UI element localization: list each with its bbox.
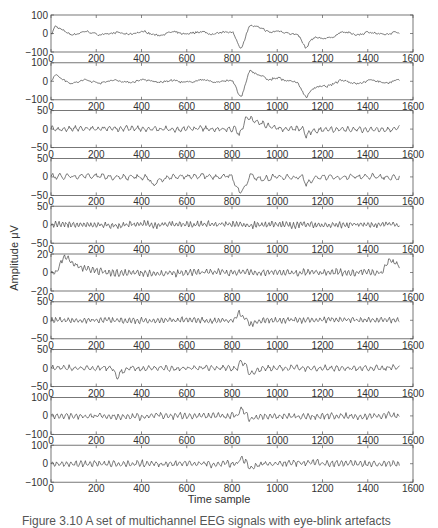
svg-text:1000: 1000 [266,196,289,207]
svg-text:200: 200 [88,388,105,399]
eeg-trace [51,360,399,379]
svg-text:100: 100 [31,392,48,403]
svg-text:100: 100 [31,57,48,68]
svg-text:0: 0 [42,410,48,421]
svg-text:−100: −100 [25,47,48,58]
svg-text:1600: 1600 [402,435,425,446]
channel-panel-3: −5005002004006008001000120014001600 [31,105,425,160]
svg-text:1200: 1200 [311,101,334,112]
eeg-trace [51,310,399,326]
svg-text:1600: 1600 [402,340,425,351]
svg-text:400: 400 [133,340,150,351]
svg-text:1600: 1600 [402,53,425,64]
svg-text:0: 0 [48,340,54,351]
svg-text:0: 0 [42,267,48,278]
svg-text:1600: 1600 [402,196,425,207]
svg-text:0: 0 [42,363,48,374]
svg-text:1200: 1200 [311,196,334,207]
svg-text:200: 200 [88,292,105,303]
eeg-trace [51,173,399,193]
svg-text:−100: −100 [25,94,48,105]
svg-text:1000: 1000 [266,340,289,351]
svg-text:1000: 1000 [266,388,289,399]
svg-text:800: 800 [224,149,241,160]
svg-text:0: 0 [42,219,48,230]
y-axis-label: Amplitude μV [8,212,20,304]
svg-text:600: 600 [178,435,195,446]
svg-text:600: 600 [178,53,195,64]
svg-text:0: 0 [48,292,54,303]
svg-text:800: 800 [224,340,241,351]
svg-text:1400: 1400 [357,149,380,160]
svg-text:600: 600 [178,340,195,351]
svg-text:0: 0 [42,315,48,326]
svg-text:50: 50 [37,201,49,212]
eeg-trace [51,255,399,277]
svg-text:1000: 1000 [266,244,289,255]
svg-text:600: 600 [178,196,195,207]
svg-text:0: 0 [48,244,54,255]
svg-text:1400: 1400 [357,101,380,112]
svg-text:1200: 1200 [311,340,334,351]
svg-text:0: 0 [42,171,48,182]
svg-text:200: 200 [88,101,105,112]
svg-text:100: 100 [31,440,48,451]
svg-text:0: 0 [48,101,54,112]
svg-text:800: 800 [224,101,241,112]
svg-text:200: 200 [88,340,105,351]
channel-panel-5: −5005002004006008001000120014001600 [31,201,425,256]
svg-text:−100: −100 [25,477,48,488]
svg-text:1400: 1400 [357,435,380,446]
svg-text:1600: 1600 [402,244,425,255]
channel-panel-4: −5005002004006008001000120014001600 [31,153,425,208]
svg-text:800: 800 [224,435,241,446]
svg-text:1000: 1000 [266,149,289,160]
svg-text:0: 0 [48,53,54,64]
svg-text:−50: −50 [31,381,48,392]
svg-text:200: 200 [88,53,105,64]
eeg-trace [51,70,399,98]
svg-text:1200: 1200 [311,292,334,303]
svg-text:400: 400 [133,101,150,112]
svg-text:50: 50 [37,105,49,116]
svg-text:200: 200 [88,196,105,207]
svg-text:1000: 1000 [266,53,289,64]
svg-text:600: 600 [178,388,195,399]
x-axis-label: Time sample [0,493,438,505]
svg-text:−50: −50 [31,190,48,201]
channel-panel-2: −100010002004006008001000120014001600 [25,57,424,112]
svg-text:200: 200 [88,149,105,160]
svg-text:600: 600 [178,244,195,255]
svg-text:100: 100 [31,10,48,21]
svg-text:800: 800 [224,388,241,399]
svg-text:600: 600 [178,101,195,112]
svg-text:800: 800 [224,53,241,64]
svg-text:−50: −50 [31,333,48,344]
eeg-trace [51,25,399,48]
svg-text:1200: 1200 [311,388,334,399]
svg-text:400: 400 [133,388,150,399]
svg-text:0: 0 [42,28,48,39]
svg-text:1000: 1000 [266,101,289,112]
svg-text:0: 0 [48,388,54,399]
svg-text:0: 0 [42,458,48,469]
svg-text:0: 0 [42,76,48,87]
svg-text:50: 50 [37,296,49,307]
svg-text:−20: −20 [31,286,48,297]
svg-text:400: 400 [133,53,150,64]
channel-panel-8: −5005002004006008001000120014001600 [31,344,425,399]
svg-text:200: 200 [88,435,105,446]
channel-panel-6: −2002002004006008001000120014001600 [31,249,425,304]
svg-text:1200: 1200 [311,149,334,160]
svg-text:50: 50 [37,344,49,355]
eeg-trace [51,456,399,469]
channel-panel-1: −100010002004006008001000120014001600 [25,10,424,65]
eeg-trace [51,220,399,229]
svg-text:800: 800 [224,196,241,207]
svg-text:1400: 1400 [357,244,380,255]
svg-text:1400: 1400 [357,53,380,64]
svg-text:1600: 1600 [402,149,425,160]
svg-text:20: 20 [37,249,49,260]
eeg-trace [51,407,399,422]
